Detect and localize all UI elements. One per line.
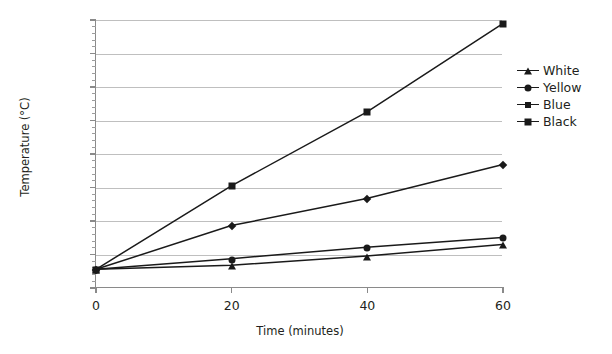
- legend: WhiteYellowBlueBlack: [517, 62, 609, 130]
- x-tick-label: 0: [76, 298, 116, 313]
- data-point-black-20: [228, 183, 235, 190]
- data-point-blue-60: [499, 161, 507, 169]
- data-point-white-40: [363, 253, 371, 260]
- legend-item-white[interactable]: White: [517, 62, 609, 79]
- legend-item-yellow[interactable]: Yellow: [517, 79, 609, 96]
- data-point-white-60: [499, 242, 507, 249]
- data-point-blue-40: [363, 195, 371, 203]
- data-point-yellow-40: [364, 245, 371, 252]
- legend-label: Black: [543, 114, 577, 129]
- x-tick-label: 40: [347, 298, 387, 313]
- data-point-blue-20: [227, 222, 235, 230]
- chart-page: Temperature (°C) 25262728293031323302040…: [0, 0, 612, 354]
- x-tick-mark: [95, 287, 96, 293]
- series-markers: [96, 20, 502, 287]
- legend-swatch-triangle-icon: [517, 64, 539, 78]
- data-point-black-60: [500, 21, 507, 28]
- x-tick-label: 60: [483, 298, 523, 313]
- data-point-white-20: [228, 263, 236, 270]
- data-point-yellow-20: [228, 256, 235, 263]
- legend-label: White: [543, 63, 579, 78]
- legend-label: Blue: [543, 97, 571, 112]
- x-axis-title: Time (minutes): [95, 324, 505, 338]
- legend-item-blue[interactable]: Blue: [517, 96, 609, 113]
- data-point-black-0: [93, 267, 100, 274]
- y-axis-title: Temperature (°C): [14, 2, 36, 292]
- plot-area: 2526272829303132330204060: [95, 20, 502, 288]
- x-tick-mark: [231, 287, 232, 293]
- data-point-black-40: [364, 109, 371, 116]
- legend-swatch-square-icon: [517, 115, 539, 129]
- data-point-yellow-60: [500, 235, 507, 242]
- legend-label: Yellow: [543, 80, 581, 95]
- legend-item-black[interactable]: Black: [517, 113, 609, 130]
- x-axis-end-tick: [502, 287, 503, 293]
- x-tick-mark: [367, 287, 368, 293]
- legend-swatch-circle-icon: [517, 81, 539, 95]
- x-tick-label: 20: [212, 298, 252, 313]
- legend-swatch-diamond-icon: [517, 98, 539, 112]
